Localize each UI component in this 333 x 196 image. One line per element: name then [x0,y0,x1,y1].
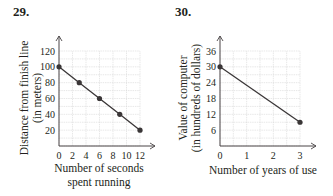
y-tick-label: 36 [206,46,216,57]
x-tick-label: 2 [271,150,276,161]
data-point [217,64,222,69]
data-line [220,67,300,122]
x-tick-label: 0 [218,150,223,161]
data-point [297,120,302,125]
grid [220,51,300,146]
y-axis-label: Value of computer [177,55,190,140]
y-axis-label: (in hundreds of dollars) [190,44,203,152]
chart-30-computer-value: 012361218243036Number of years of useVal… [0,0,333,196]
x-tick-label: 3 [298,150,303,161]
y-tick-label: 12 [206,109,216,120]
y-tick-label: 30 [206,61,216,72]
x-axis-label: Number of years of use [209,164,317,177]
y-tick-label: 6 [211,125,216,136]
x-tick-label: 1 [244,150,249,161]
y-tick-label: 18 [206,93,216,104]
y-tick-label: 24 [206,77,216,88]
